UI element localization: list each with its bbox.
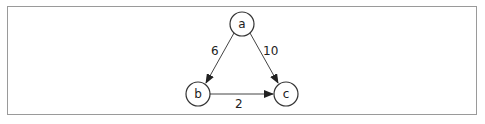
edge-weight-a-c: 10 [263, 44, 278, 58]
edge-a-c [250, 33, 278, 83]
edge-weight-a-b: 6 [211, 44, 219, 58]
node-c-label: c [283, 87, 290, 101]
node-b-label: b [194, 87, 202, 101]
node-a: a [230, 12, 254, 36]
node-b: b [186, 82, 210, 106]
edge-weight-b-c: 2 [235, 97, 243, 111]
node-c: c [274, 82, 298, 106]
edge-a-b [206, 33, 234, 83]
node-a-label: a [238, 17, 245, 31]
graph-diagram: 6 10 2 a b c [0, 0, 485, 124]
